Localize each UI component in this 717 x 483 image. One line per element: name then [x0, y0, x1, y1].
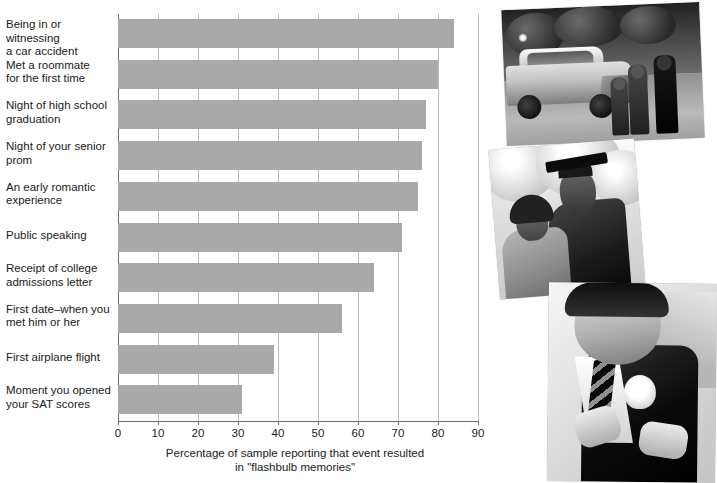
bar-row — [118, 95, 478, 136]
category-label-line-2: experience — [6, 194, 114, 208]
bar — [118, 304, 342, 333]
photo-prom-boutonniere — [547, 282, 717, 483]
category-label: An early romanticexperience — [6, 181, 114, 208]
x-tick-mark — [438, 421, 439, 425]
category-label: Night of your seniorprom — [6, 140, 114, 167]
bar — [118, 100, 426, 129]
x-tick-label: 40 — [258, 427, 298, 439]
bar-chart-figure: Percentage of sample reporting that even… — [0, 0, 495, 482]
category-label: Moment you openedyour SAT scores — [6, 384, 114, 411]
bar-row — [118, 380, 478, 421]
car-accident-scene — [501, 2, 705, 146]
x-tick-label: 80 — [418, 427, 458, 439]
category-label: Night of high schoolgraduation — [6, 99, 114, 126]
category-label-line-1: Night of your senior — [6, 140, 114, 154]
bar — [118, 182, 418, 211]
bar — [118, 263, 374, 292]
category-label: Public speaking — [6, 229, 114, 243]
category-label-line-1: First airplane flight — [6, 351, 114, 365]
bar-row — [118, 55, 478, 96]
category-label-line-2: graduation — [6, 113, 114, 127]
x-tick-label: 70 — [378, 427, 418, 439]
x-tick-mark — [318, 421, 319, 425]
category-label: Met a roommatefor the first time — [6, 59, 114, 86]
category-label-line-1: An early romantic — [6, 181, 114, 195]
category-label-line-1: Moment you opened — [6, 384, 114, 398]
bar-row — [118, 218, 478, 259]
category-label-line-1: Being in or witnessing — [6, 18, 114, 45]
bar — [118, 60, 438, 89]
bar — [118, 223, 402, 252]
x-tick-label: 30 — [218, 427, 258, 439]
bar — [118, 141, 422, 170]
x-tick-mark — [398, 421, 399, 425]
graduation-scene — [488, 139, 645, 300]
x-tick-label: 0 — [98, 427, 138, 439]
x-tick-label: 60 — [338, 427, 378, 439]
category-label-line-1: Met a roommate — [6, 59, 114, 73]
x-tick-label: 10 — [138, 427, 178, 439]
bar — [118, 385, 242, 414]
category-label-line-1: Receipt of college — [6, 262, 114, 276]
x-tick-mark — [158, 421, 159, 425]
photo-collage — [490, 0, 716, 482]
photo-car-accident — [501, 2, 705, 146]
x-tick-mark — [238, 421, 239, 425]
bar-row — [118, 136, 478, 177]
category-label-line-1: First date–when you — [6, 303, 114, 317]
plot-area — [118, 14, 478, 421]
x-tick-mark — [118, 421, 119, 425]
x-tick-mark — [278, 421, 279, 425]
category-label-line-1: Night of high school — [6, 99, 114, 113]
category-label: Receipt of collegeadmissions letter — [6, 262, 114, 289]
category-label: First airplane flight — [6, 351, 114, 365]
category-label-line-2: your SAT scores — [6, 398, 114, 412]
gridline — [478, 14, 479, 421]
category-label: Being in or witnessinga car accident — [6, 18, 114, 59]
prom-attendee-hair — [565, 282, 669, 317]
photo-graduation — [488, 139, 645, 300]
x-tick-mark — [358, 421, 359, 425]
x-tick-label: 50 — [298, 427, 338, 439]
bar-row — [118, 177, 478, 218]
boutonniere-flower — [624, 375, 656, 409]
prom-scene — [547, 282, 717, 483]
category-label-line-2: prom — [6, 154, 114, 168]
x-tick-label: 20 — [178, 427, 218, 439]
category-label: First date–when youmet him or her — [6, 303, 114, 330]
bar-row — [118, 340, 478, 381]
bar-row — [118, 14, 478, 55]
bar — [118, 345, 274, 374]
x-axis-line — [118, 421, 479, 422]
bar-row — [118, 258, 478, 299]
x-axis-title-line-1: Percentage of sample reporting that even… — [100, 446, 490, 460]
x-axis-title-line-2: in "flashbulb memories" — [100, 460, 490, 474]
category-label-line-2: a car accident — [6, 45, 114, 59]
x-axis-title: Percentage of sample reporting that even… — [100, 446, 490, 474]
category-label-line-2: met him or her — [6, 316, 114, 330]
category-label-line-2: admissions letter — [6, 276, 114, 290]
category-label-line-1: Public speaking — [6, 229, 114, 243]
bar-row — [118, 299, 478, 340]
x-tick-mark — [478, 421, 479, 425]
bar — [118, 19, 454, 48]
category-label-line-2: for the first time — [6, 72, 114, 86]
x-tick-mark — [198, 421, 199, 425]
